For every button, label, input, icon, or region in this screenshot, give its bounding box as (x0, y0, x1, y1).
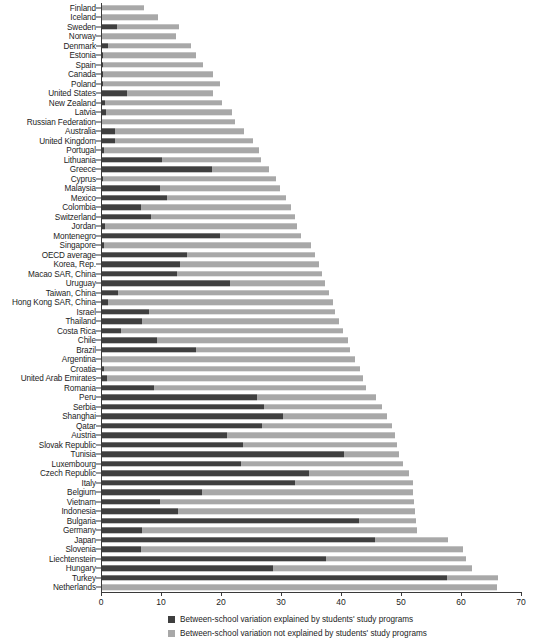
bar-segment-not-explained (103, 62, 203, 67)
bar-segment-explained (101, 490, 202, 495)
bar-segment-explained (101, 328, 121, 333)
stacked-bar (101, 176, 276, 181)
chart-row: Taiwan, China (0, 288, 538, 298)
stacked-bar (101, 357, 355, 362)
chart-row: Brazil (0, 345, 538, 355)
category-label: Belgium (67, 488, 96, 497)
bar-segment-explained (101, 395, 257, 400)
bar-segment-not-explained (375, 537, 449, 542)
legend-item-explained: Between-school variation explained by st… (0, 612, 538, 626)
chart-row: Chile (0, 336, 538, 346)
stacked-bar (101, 537, 448, 542)
bar-segment-explained (101, 157, 162, 162)
category-label: Uruguay (66, 279, 96, 288)
stacked-bar (101, 91, 213, 96)
x-axis-tick-label: 0 (99, 597, 104, 607)
chart-row: United Arab Emirates (0, 374, 538, 384)
bar-segment-not-explained (180, 262, 319, 267)
chart-row: Slovak Republic (0, 440, 538, 450)
stacked-bar (101, 290, 329, 295)
bar-segment-not-explained (141, 547, 463, 552)
chart-row: Iceland (0, 13, 538, 23)
x-axis-tick (221, 592, 222, 596)
bar-segment-explained (101, 385, 154, 390)
stacked-bar (101, 518, 416, 523)
category-label: Spain (76, 60, 96, 69)
category-label: Romania (64, 383, 96, 392)
bar-segment-explained (101, 452, 344, 457)
bar-segment-not-explained (220, 233, 300, 238)
bar-segment-not-explained (196, 347, 350, 352)
bar-segment-explained (101, 461, 241, 466)
stacked-bar (101, 366, 360, 371)
stacked-bar (101, 385, 366, 390)
legend-swatch-not-explained-icon (168, 630, 175, 637)
bar-segment-explained (101, 347, 196, 352)
stacked-bar (101, 138, 253, 143)
bar-segment-not-explained (212, 167, 269, 172)
category-label: Denmark (63, 41, 96, 50)
chart-row: Peru (0, 393, 538, 403)
legend-item-not-explained: Between-school variation not explained b… (0, 626, 538, 640)
category-label: Japan (74, 535, 96, 544)
category-label: Liechtenstein (49, 554, 96, 563)
stacked-bar (101, 471, 409, 476)
bar-segment-explained (101, 281, 230, 286)
x-axis-tick (281, 592, 282, 596)
category-label: Korea, Rep. (53, 260, 96, 269)
stacked-bar (101, 404, 382, 409)
stacked-bar (101, 53, 196, 58)
chart-row: Malaysia (0, 184, 538, 194)
stacked-bar (101, 300, 333, 305)
stacked-bar (101, 490, 413, 495)
bar-segment-not-explained (149, 309, 335, 314)
bar-segment-explained (101, 528, 142, 533)
x-axis-tick-label: 10 (156, 597, 165, 607)
category-label: Thailand (65, 317, 96, 326)
bar-segment-not-explained (151, 214, 295, 219)
chart-row: Greece (0, 165, 538, 175)
stacked-bar (101, 328, 343, 333)
chart-row: Italy (0, 478, 538, 488)
bar-segment-not-explained (167, 195, 286, 200)
category-label: Switzerland (55, 212, 96, 221)
bar-segment-not-explained (102, 119, 235, 124)
x-axis-tick-label: 40 (336, 597, 345, 607)
chart-row: Hungary (0, 564, 538, 574)
bar-segment-explained (101, 575, 447, 580)
stacked-bar (101, 214, 295, 219)
chart-row: Germany (0, 526, 538, 536)
bar-segment-explained (101, 195, 167, 200)
category-label: Czech Republic (40, 469, 96, 478)
category-label: Slovak Republic (39, 440, 96, 449)
chart-row: Netherlands (0, 583, 538, 593)
chart-row: Vietnam (0, 497, 538, 507)
category-label: Peru (79, 393, 96, 402)
bar-segment-not-explained (104, 148, 259, 153)
bar-segment-not-explained (447, 575, 498, 580)
stacked-bar (101, 110, 232, 115)
stacked-bar (101, 62, 203, 67)
stacked-bar (101, 556, 466, 561)
category-label: Mexico (71, 193, 96, 202)
bar-segment-not-explained (103, 81, 220, 86)
chart-row: Mexico (0, 193, 538, 203)
category-label: United Kingdom (39, 136, 96, 145)
stacked-bar (101, 281, 325, 286)
chart-row: Norway (0, 32, 538, 42)
plot-area: FinlandIcelandSwedenNorwayDenmarkEstonia… (0, 0, 538, 600)
stacked-bar (101, 395, 376, 400)
bar-segment-explained (101, 499, 160, 504)
bar-segment-not-explained (108, 300, 332, 305)
chart-row: United Kingdom (0, 136, 538, 146)
bar-segment-not-explained (102, 357, 355, 362)
chart-row: Macao SAR, China (0, 269, 538, 279)
stacked-bar (101, 5, 144, 10)
bar-segment-explained (101, 91, 127, 96)
stacked-bar (101, 262, 319, 267)
category-label: Australia (65, 127, 96, 136)
category-label: Austria (71, 431, 96, 440)
category-label: Estonia (69, 51, 96, 60)
legend-label-explained: Between-school variation explained by st… (180, 615, 413, 624)
stacked-bar (101, 224, 297, 229)
